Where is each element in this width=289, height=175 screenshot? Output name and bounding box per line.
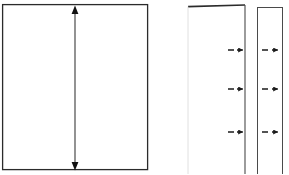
technical-line-diagram [0, 0, 289, 174]
right-narrow-rectangle [258, 8, 283, 175]
right-panel-group [258, 8, 283, 175]
diagram-canvas [0, 0, 289, 174]
